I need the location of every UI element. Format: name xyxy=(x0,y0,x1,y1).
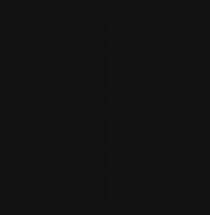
star-lines xyxy=(106,108,202,206)
quilt-block-diagram xyxy=(0,0,210,215)
quadrant-bottom-right xyxy=(106,108,202,206)
figure-root xyxy=(0,0,210,215)
